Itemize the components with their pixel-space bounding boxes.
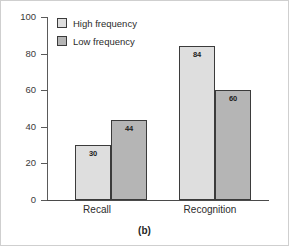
- bar-value-label: 84: [180, 50, 214, 59]
- y-tick-label-80: 80: [0, 49, 36, 59]
- bar-recognition-high-frequency: 84: [179, 46, 215, 200]
- bar-recall-high-frequency: 30: [75, 145, 111, 200]
- figure-caption: (b): [1, 225, 288, 236]
- legend-swatch-icon: [57, 36, 67, 46]
- bar-value-label: 60: [216, 94, 250, 103]
- bar-value-label: 30: [76, 149, 110, 158]
- y-tick-label-40: 40: [0, 122, 36, 132]
- legend-item-low-frequency: Low frequency: [57, 35, 137, 47]
- legend-swatch-icon: [57, 18, 67, 28]
- y-tick-label-0: 0: [0, 195, 36, 205]
- legend-label: High frequency: [73, 18, 137, 29]
- x-tick-label-recall: Recall: [47, 204, 147, 215]
- bar-recognition-low-frequency: 60: [215, 90, 251, 200]
- bar-chart-figure: 100 80 60 40 20 0 30 44 84 60 Recall Rec…: [0, 0, 289, 246]
- legend-item-high-frequency: High frequency: [57, 17, 137, 29]
- y-tick-label-20: 20: [0, 159, 36, 169]
- bar-value-label: 44: [112, 124, 146, 133]
- legend-label: Low frequency: [73, 36, 135, 47]
- y-tick-label-60: 60: [0, 85, 36, 95]
- x-tick-label-recognition: Recognition: [151, 204, 269, 215]
- y-tick-label-100: 100: [0, 12, 36, 22]
- legend: High frequency Low frequency: [57, 17, 137, 53]
- x-axis-line: [47, 200, 269, 201]
- bar-recall-low-frequency: 44: [111, 120, 147, 201]
